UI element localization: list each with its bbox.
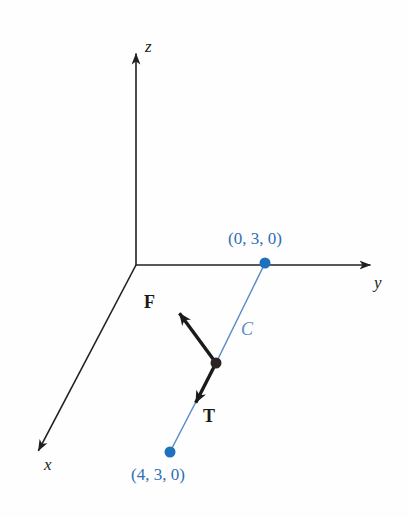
force-vector-F-label: F	[144, 293, 155, 311]
tension-vector-T-line	[196, 363, 216, 403]
vectors-group	[179, 313, 216, 403]
diagram-svg	[0, 0, 409, 517]
curve-group	[170, 263, 265, 452]
z-axis-label: z	[145, 38, 152, 55]
curve-C-line	[170, 263, 265, 452]
tension-vector-T-label: T	[203, 407, 215, 425]
point-on-curve-dot[interactable]	[211, 358, 222, 369]
point-4-3-0-dot[interactable]	[165, 447, 176, 458]
figure-canvas: z y x (0, 3, 0) (4, 3, 0) C F T	[0, 0, 409, 517]
point-0-3-0-label: (0, 3, 0)	[228, 230, 282, 247]
point-0-3-0-dot[interactable]	[260, 258, 271, 269]
x-axis-line	[38, 265, 136, 451]
axes-group	[38, 54, 370, 451]
points-group	[165, 258, 271, 458]
x-axis-label: x	[44, 456, 52, 473]
point-4-3-0-label: (4, 3, 0)	[131, 466, 185, 483]
y-axis-label: y	[374, 274, 382, 291]
force-vector-F-line	[179, 313, 216, 363]
curve-C-label: C	[241, 320, 253, 338]
